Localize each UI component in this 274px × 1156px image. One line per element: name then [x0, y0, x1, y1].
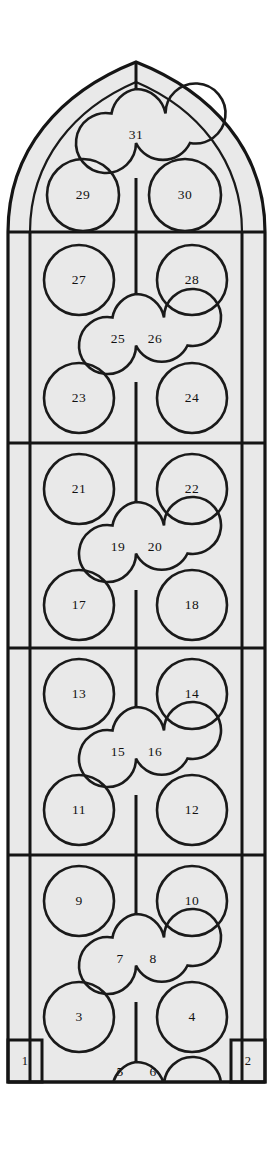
light-label-29: 29 — [76, 187, 90, 202]
light-label-7: 7 — [116, 951, 123, 966]
light-label-6: 6 — [149, 1064, 156, 1079]
light-label-3: 3 — [75, 1009, 82, 1024]
light-label-12: 12 — [185, 802, 199, 817]
light-label-17: 17 — [72, 597, 86, 612]
light-label-24: 24 — [185, 390, 199, 405]
light-label-4: 4 — [188, 1009, 195, 1024]
light-label-8: 8 — [149, 951, 156, 966]
light-label-16: 16 — [148, 744, 162, 759]
light-label-19: 19 — [111, 539, 125, 554]
light-label-30: 30 — [178, 187, 192, 202]
light-label-26: 26 — [148, 331, 162, 346]
light-label-11: 11 — [72, 802, 86, 817]
light-label-23: 23 — [72, 390, 86, 405]
light-label-13: 13 — [72, 686, 86, 701]
light-label-18: 18 — [185, 597, 199, 612]
base-panel-label-1: 1 — [22, 1054, 29, 1068]
light-label-9: 9 — [75, 893, 82, 908]
light-label-22: 22 — [185, 481, 199, 496]
light-label-31: 31 — [129, 127, 143, 142]
light-label-25: 25 — [111, 331, 125, 346]
light-label-28: 28 — [185, 272, 199, 287]
light-label-10: 10 — [185, 893, 199, 908]
light-label-14: 14 — [185, 686, 199, 701]
light-label-27: 27 — [72, 272, 86, 287]
base-panel-label-2: 2 — [245, 1054, 252, 1068]
light-label-5: 5 — [116, 1064, 123, 1079]
light-label-15: 15 — [111, 744, 125, 759]
light-label-21: 21 — [72, 481, 86, 496]
light-label-20: 20 — [148, 539, 162, 554]
gothic-window-panel-diagram: 31 29 30 27 28 25 26 23 24 21 22 19 20 1… — [0, 0, 274, 1156]
